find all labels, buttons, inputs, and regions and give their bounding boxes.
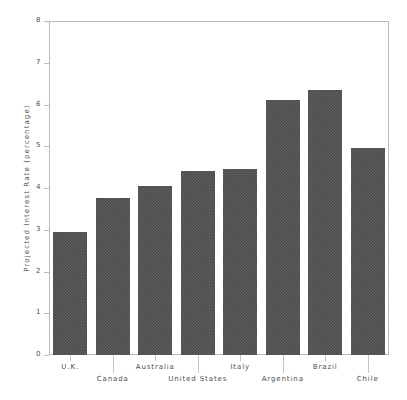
y-tick: 8 [0, 21, 49, 22]
y-tick: 1 [0, 313, 49, 314]
x-tick-mark [283, 355, 284, 373]
y-tick: 4 [0, 188, 49, 189]
y-tick-label: 1 [36, 307, 41, 318]
y-tick-mark [44, 355, 49, 356]
y-tick-label: 3 [36, 224, 41, 235]
x-tick-mark [155, 355, 156, 361]
bar [223, 169, 257, 355]
x-tick-label: Italy [230, 362, 250, 372]
y-tick: 0 [0, 355, 49, 356]
bar [53, 232, 87, 355]
x-tick-label: Argentina [262, 374, 304, 384]
bar [308, 90, 342, 355]
y-tick: 2 [0, 272, 49, 273]
y-tick: 5 [0, 146, 49, 147]
x-tick-mark [198, 355, 199, 373]
x-tick-mark [368, 355, 369, 373]
x-tick-label: Australia [136, 362, 175, 372]
x-tick-mark [240, 355, 241, 361]
bars-layer [49, 21, 389, 355]
bar [351, 148, 385, 355]
bar [138, 186, 172, 355]
x-tick-label: Chile [357, 374, 379, 384]
y-tick-label: 8 [36, 15, 41, 26]
y-tick: 7 [0, 63, 49, 64]
x-tick-label: U.K. [61, 362, 79, 372]
x-tick-mark [113, 355, 114, 373]
x-tick-mark [70, 355, 71, 361]
bar [96, 198, 130, 355]
y-tick: 6 [0, 105, 49, 106]
y-tick: 3 [0, 230, 49, 231]
x-tick-label: Brazil [313, 362, 338, 372]
bar [266, 100, 300, 355]
y-tick-label: 0 [36, 349, 41, 360]
x-tick-label: United States [168, 374, 227, 384]
y-tick-label: 7 [36, 57, 41, 68]
y-tick-label: 2 [36, 266, 41, 277]
x-tick-label: Canada [97, 374, 129, 384]
bar-chart: Projected Interest Rate (percentage) 012… [0, 0, 407, 400]
x-tick-mark [325, 355, 326, 361]
y-tick-label: 6 [36, 99, 41, 110]
bar [181, 171, 215, 355]
y-tick-label: 5 [36, 140, 41, 151]
y-tick-label: 4 [36, 182, 41, 193]
